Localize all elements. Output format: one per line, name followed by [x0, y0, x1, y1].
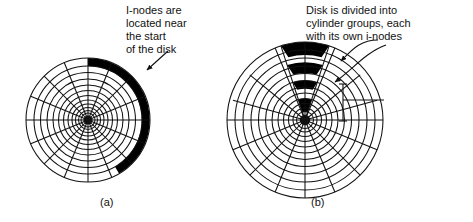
annotation-inodes-note: I-nodes are located near the start of th… — [126, 4, 187, 56]
spindle-hub-b — [300, 115, 310, 125]
subcaption-a: (a) — [100, 196, 113, 208]
subcaption-b: (b) — [311, 196, 324, 208]
annotation-cylinder-groups-note: Disk is divided into cylinder groups, ea… — [306, 4, 411, 43]
spindle-hub-a — [83, 115, 92, 124]
